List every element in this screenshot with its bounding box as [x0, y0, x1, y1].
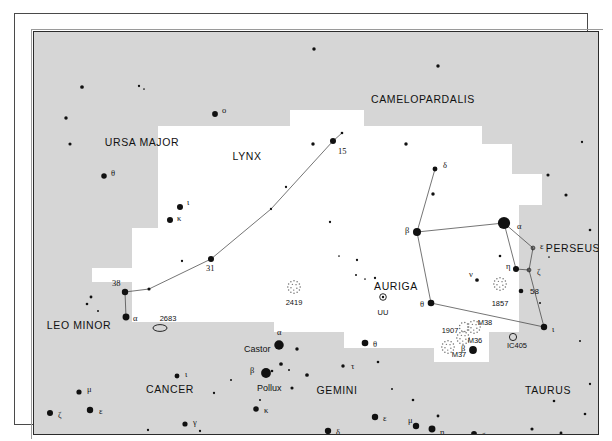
constellation-name: AURIGA — [374, 280, 418, 292]
constellation-name: URSA MAJOR — [105, 136, 179, 148]
sky-map: oθικ38α3115δβαεηζνθιβ58μεζιγαCastorβPoll… — [34, 32, 598, 434]
star-chart-page: oθικ38α3115δβαεηζνθιβ58μεζιγαCastorβPoll… — [0, 0, 612, 441]
constellation-name: CAMELOPARDALIS — [371, 93, 475, 105]
constellation-name: CANCER — [146, 383, 194, 395]
constellation-name: LEO MINOR — [47, 319, 111, 331]
constellation-names-layer: URSA MAJORCAMELOPARDALISLYNXAURIGAPERSEU… — [34, 32, 598, 434]
constellation-name: PERSEUS — [546, 242, 599, 254]
chart-outer-frame: oθικ38α3115δβαεηζνθιβ58μεζιγαCastorβPoll… — [14, 13, 588, 425]
constellation-name: TAURUS — [525, 384, 571, 396]
constellation-name: GEMINI — [317, 384, 358, 396]
constellation-name: LYNX — [232, 150, 261, 162]
chart-plot-area: oθικ38α3115δβαεηζνθιβ58μεζιγαCastorβPoll… — [33, 31, 599, 435]
